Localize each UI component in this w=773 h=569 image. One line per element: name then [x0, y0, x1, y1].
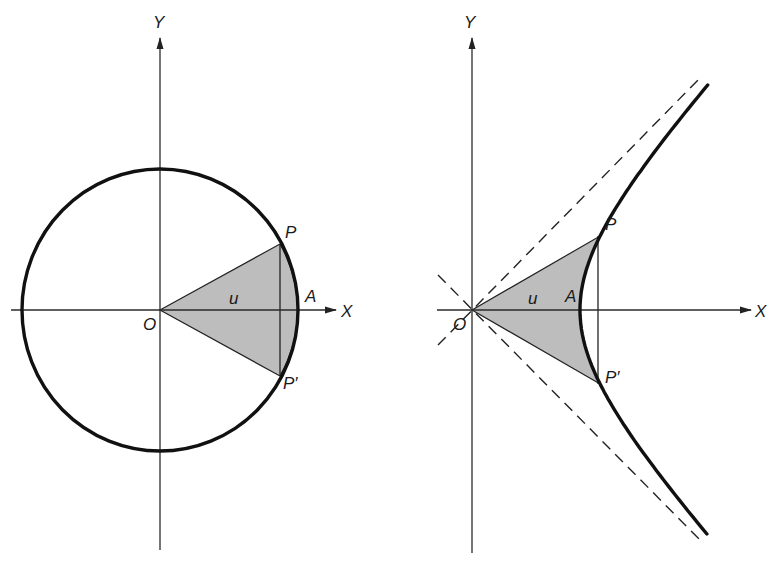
x-axis-label: X — [754, 302, 767, 321]
x-axis-label: X — [340, 302, 353, 321]
diagram-canvas: Y X O P P′ A u Y X O P — [0, 0, 773, 569]
figure-stage: Y X O P P′ A u Y X O P — [0, 0, 773, 569]
y-axis-label: Y — [464, 13, 477, 32]
point-p-label: P — [605, 215, 617, 234]
y-axis-label: Y — [153, 13, 166, 32]
parameter-u-label: u — [229, 289, 239, 308]
point-p-prime-label: P′ — [283, 374, 298, 393]
parameter-u-label: u — [528, 289, 538, 308]
point-p-label: P — [285, 223, 297, 242]
origin-label: O — [453, 315, 466, 334]
point-a-label: A — [304, 287, 316, 306]
hyperbola-panel: Y X O P P′ A u — [437, 13, 767, 553]
circle-panel: Y X O P P′ A u — [11, 13, 353, 550]
point-p-prime-label: P′ — [605, 368, 620, 387]
origin-label: O — [143, 315, 156, 334]
point-a-label: A — [564, 287, 576, 306]
